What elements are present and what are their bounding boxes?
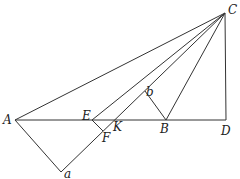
segment-Aa <box>15 120 61 172</box>
geometry-diagram: C A D E K B F b a <box>0 0 240 179</box>
segment-CD <box>225 13 226 120</box>
label-B: B <box>159 122 169 136</box>
segment-Ca <box>61 13 225 172</box>
label-A: A <box>2 113 12 127</box>
label-C: C <box>228 3 237 17</box>
label-F: F <box>101 131 111 145</box>
label-b: b <box>146 85 154 99</box>
label-E: E <box>81 109 91 123</box>
segment-EF <box>92 120 103 131</box>
label-D: D <box>220 124 231 138</box>
segment-CA <box>15 13 225 120</box>
segment-CB <box>166 13 225 120</box>
label-K: K <box>112 120 123 134</box>
segment-CE <box>92 13 225 120</box>
label-a: a <box>64 167 71 179</box>
